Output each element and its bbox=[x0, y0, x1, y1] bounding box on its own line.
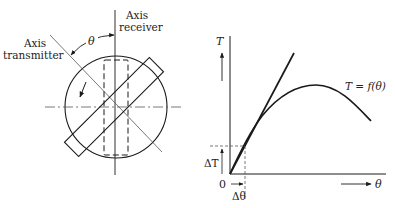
rotation-arrow-icon bbox=[80, 82, 86, 97]
torque-curve bbox=[230, 85, 371, 174]
delta-t-label: ΔT bbox=[204, 157, 219, 169]
y-axis-label: T bbox=[216, 35, 225, 48]
curve-label: T = f(θ) bbox=[345, 80, 386, 92]
origin-label: 0 bbox=[219, 178, 226, 191]
receiver-axis-label-line2: receiver bbox=[119, 21, 164, 33]
receiver-axis-label-line1: Axis bbox=[125, 9, 148, 21]
tangent-line bbox=[230, 53, 294, 174]
transmitter-axis-label-line2: transmitter bbox=[3, 49, 65, 61]
x-axis-label: θ bbox=[375, 178, 382, 191]
figure-canvas: θ Axis receiver Axis transmitter T θ 0 T… bbox=[0, 0, 395, 208]
delta-theta-label: Δθ bbox=[232, 190, 246, 202]
synchro-diagram: θ Axis receiver Axis transmitter bbox=[3, 9, 183, 175]
torque-chart: T θ 0 T = f(θ) ΔT Δθ bbox=[204, 35, 386, 202]
receiver-coil-dashed bbox=[104, 60, 128, 155]
rotor-circle bbox=[65, 56, 167, 158]
theta-label: θ bbox=[88, 35, 95, 48]
transmitter-axis-label-line1: Axis bbox=[23, 37, 46, 49]
